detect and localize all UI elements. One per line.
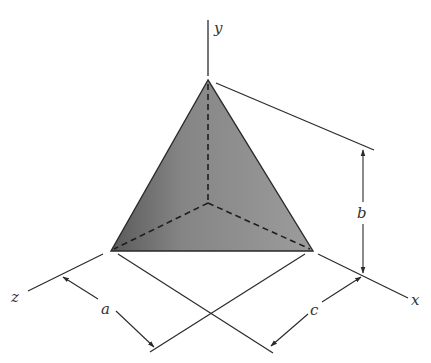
dimension-a-label: a bbox=[101, 300, 110, 318]
dimension-a-line-upper bbox=[63, 277, 98, 299]
x-axis-label: x bbox=[411, 291, 420, 309]
y-axis-label: y bbox=[213, 19, 223, 37]
dimension-c-line-upper bbox=[322, 277, 361, 302]
tetrahedron-face bbox=[111, 80, 313, 251]
dimension-a-line-lower bbox=[116, 311, 154, 347]
left-extension-line bbox=[118, 254, 273, 353]
dimension-c-line-lower bbox=[271, 314, 308, 346]
z-axis-label: z bbox=[10, 288, 19, 306]
tetrahedron-diagram: y x z b a c bbox=[0, 0, 431, 363]
z-axis bbox=[28, 254, 103, 291]
dimension-b-label: b bbox=[357, 204, 367, 222]
dimension-c-label: c bbox=[310, 301, 319, 319]
